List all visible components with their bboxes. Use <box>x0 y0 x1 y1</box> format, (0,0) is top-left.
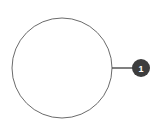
callout-diagram: 1 <box>0 0 160 129</box>
diagram-canvas: 1 <box>0 0 160 129</box>
callout-badge-label: 1 <box>138 64 143 74</box>
callout-badge-1[interactable]: 1 <box>132 59 150 77</box>
